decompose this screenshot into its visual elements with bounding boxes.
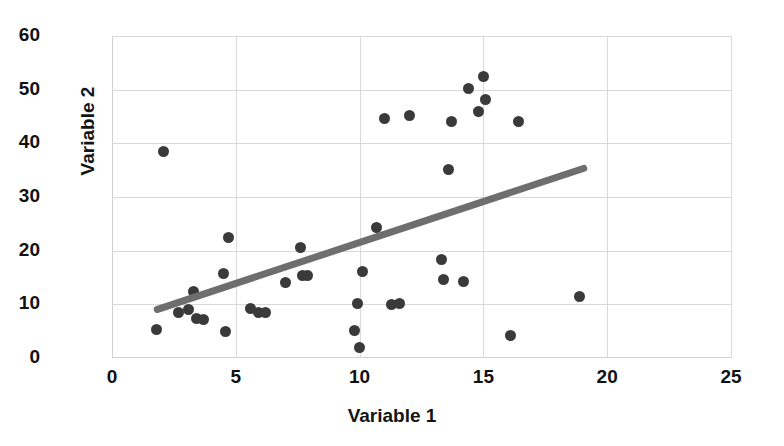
y-tick-60: 60	[0, 24, 40, 46]
data-point	[404, 110, 415, 121]
y-axis-title: Variable 2	[77, 51, 99, 211]
data-point	[438, 274, 449, 285]
data-point	[198, 314, 209, 325]
data-point	[354, 342, 365, 353]
data-point	[220, 326, 231, 337]
trendline	[153, 164, 588, 314]
data-point	[349, 325, 360, 336]
scatter-plot-figure: Variable 2 Variable 1 0102030405060 0510…	[0, 0, 784, 446]
y-tick-0: 0	[0, 346, 40, 368]
y-tick-30: 30	[0, 185, 40, 207]
data-point	[473, 106, 484, 117]
data-point	[158, 146, 169, 157]
data-point	[260, 307, 271, 318]
y-tick-10: 10	[0, 292, 40, 314]
gridline-h-60	[112, 36, 731, 37]
data-point	[151, 324, 162, 335]
x-tick-15: 15	[453, 366, 513, 388]
plot-area	[112, 36, 731, 358]
y-tick-20: 20	[0, 239, 40, 261]
data-point	[379, 113, 390, 124]
data-point	[463, 83, 474, 94]
data-point	[436, 254, 447, 265]
data-point	[302, 270, 313, 281]
data-point	[505, 330, 516, 341]
data-point	[446, 116, 457, 127]
data-point	[480, 94, 491, 105]
gridline-h-30	[112, 197, 731, 198]
x-tick-10: 10	[330, 366, 390, 388]
x-tick-25: 25	[701, 366, 761, 388]
data-point	[218, 268, 229, 279]
y-tick-40: 40	[0, 131, 40, 153]
y-tick-50: 50	[0, 78, 40, 100]
data-point	[443, 164, 454, 175]
x-tick-0: 0	[82, 366, 142, 388]
gridline-h-20	[112, 251, 731, 252]
gridline-h-50	[112, 90, 731, 91]
x-tick-5: 5	[206, 366, 266, 388]
gridline-h-40	[112, 143, 731, 144]
gridline-v-25	[731, 36, 732, 358]
plot-bottom-border	[112, 357, 731, 358]
data-point	[352, 298, 363, 309]
data-point	[574, 291, 585, 302]
data-point	[458, 276, 469, 287]
x-axis-title: Variable 1	[0, 405, 784, 427]
data-point	[394, 298, 405, 309]
x-tick-20: 20	[577, 366, 637, 388]
gridline-h-10	[112, 304, 731, 305]
data-point	[223, 232, 234, 243]
data-point	[513, 116, 524, 127]
data-point	[357, 266, 368, 277]
data-point	[295, 242, 306, 253]
data-point	[280, 277, 291, 288]
data-point	[478, 71, 489, 82]
